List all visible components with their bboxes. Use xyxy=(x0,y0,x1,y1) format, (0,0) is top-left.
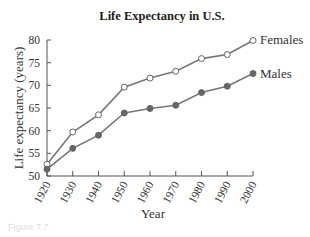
data-point xyxy=(44,166,50,172)
data-point xyxy=(250,71,256,77)
y-axis-label: Life expectancy (years) xyxy=(11,47,26,170)
x-tick-label: 1980 xyxy=(186,179,208,205)
data-point xyxy=(224,83,230,89)
data-point xyxy=(70,145,76,151)
data-point xyxy=(121,110,127,116)
data-point xyxy=(173,102,179,108)
data-point xyxy=(199,90,205,96)
life-expectancy-chart: Life Expectancy in U.S. 5055606570758019… xyxy=(0,0,310,237)
data-point xyxy=(224,52,230,58)
x-axis-label: Year xyxy=(141,206,166,221)
x-tick-label: 1930 xyxy=(57,179,79,205)
data-point xyxy=(173,68,179,74)
x-tick-label: 1940 xyxy=(83,179,105,205)
data-point xyxy=(147,75,153,81)
series-females: Females xyxy=(44,32,303,167)
data-point xyxy=(250,37,256,43)
axes: 5055606570758019201930194019501960197019… xyxy=(29,34,259,205)
y-tick-label: 75 xyxy=(29,57,41,69)
y-tick-label: 60 xyxy=(29,125,41,137)
data-point xyxy=(147,105,153,111)
x-tick-label: 1970 xyxy=(160,179,182,205)
y-tick-label: 80 xyxy=(29,34,41,46)
y-tick-label: 55 xyxy=(29,147,41,159)
chart-title: Life Expectancy in U.S. xyxy=(99,9,224,23)
legend-label-males: Males xyxy=(260,66,292,81)
series-lines: FemalesMales xyxy=(44,32,303,172)
series-males: Males xyxy=(44,66,292,173)
y-tick-label: 70 xyxy=(29,79,41,91)
data-point xyxy=(70,129,76,135)
x-tick-label: 1950 xyxy=(109,179,131,205)
data-point xyxy=(199,56,205,62)
x-tick-label: 1960 xyxy=(134,179,156,205)
x-tick-label: 1990 xyxy=(212,179,234,205)
data-point xyxy=(121,84,127,90)
data-point xyxy=(96,112,102,118)
x-tick-label: 1920 xyxy=(31,179,53,205)
x-tick-label: 2000 xyxy=(237,179,259,205)
legend-label-females: Females xyxy=(260,32,303,47)
y-tick-label: 50 xyxy=(29,170,41,182)
y-tick-label: 65 xyxy=(29,102,41,114)
figure-caption: Figure 7.7 xyxy=(8,222,49,232)
data-point xyxy=(96,132,102,138)
